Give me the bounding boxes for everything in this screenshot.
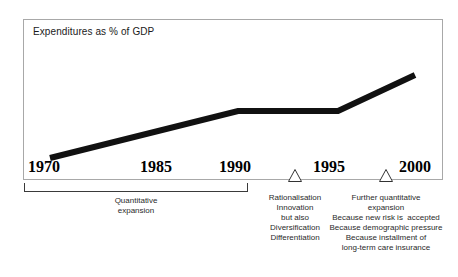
series-polyline <box>50 75 415 158</box>
quantitative-expansion-bracket <box>24 183 248 192</box>
chart-page: Expenditures as % of GDP 1970 1985 1990 … <box>0 0 458 277</box>
year-label-1970: 1970 <box>28 158 60 176</box>
triangle-marker-icon <box>379 181 393 193</box>
expenditure-line-series <box>23 19 443 180</box>
year-label-1990: 1990 <box>219 158 251 176</box>
year-label-1995: 1995 <box>313 158 345 176</box>
year-label-1985: 1985 <box>140 158 172 176</box>
year-label-2000: 2000 <box>399 158 431 176</box>
quantitative-expansion-label: Quantitativeexpansion <box>24 196 248 216</box>
callout-further-expansion: Further quantitativeexpansionBecause new… <box>316 181 456 253</box>
triangle-marker-icon <box>288 181 302 193</box>
callout-further-expansion-text: Further quantitativeexpansionBecause new… <box>316 193 456 253</box>
